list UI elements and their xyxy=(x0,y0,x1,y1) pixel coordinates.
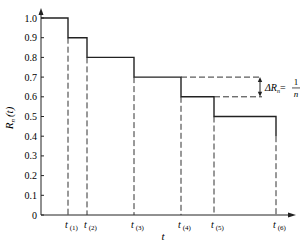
x-tick-label: t(5) xyxy=(211,219,225,232)
y-tick-label: 0.6 xyxy=(25,91,38,102)
x-tick-label: t(4) xyxy=(178,219,192,232)
y-tick-label: 0.1 xyxy=(25,190,38,201)
arrow-up-icon xyxy=(258,77,262,82)
x-axis-arrow-icon xyxy=(288,213,296,218)
step-chart: 00.10.20.30.40.50.60.70.80.91.0t(1)t(2)t… xyxy=(0,0,306,248)
delta-label: ΔRn= xyxy=(264,82,286,94)
y-tick-label: 0.2 xyxy=(25,170,38,181)
x-tick-label: t(1) xyxy=(65,219,79,232)
x-tick-label: t(6) xyxy=(273,219,287,232)
y-tick-label: 0.5 xyxy=(25,111,38,122)
x-tick-label: t(2) xyxy=(84,219,98,232)
y-tick-label: 0.3 xyxy=(25,150,38,161)
y-tick-label: 0.7 xyxy=(25,72,38,83)
fraction-numerator: 1 xyxy=(294,77,299,87)
y-axis-arrow-icon xyxy=(39,8,44,15)
arrow-down-icon xyxy=(258,92,262,97)
y-tick-label: 0.9 xyxy=(25,32,38,43)
y-tick-label: 0 xyxy=(32,210,37,221)
fraction-denominator: n xyxy=(294,89,299,99)
y-tick-label: 0.8 xyxy=(25,52,38,63)
y-tick-label: 1.0 xyxy=(25,13,38,24)
x-axis-label: t xyxy=(161,230,165,242)
x-tick-label: t(3) xyxy=(131,219,145,232)
y-tick-label: 0.4 xyxy=(25,131,38,142)
y-axis-label: Rn(t) xyxy=(3,106,17,130)
